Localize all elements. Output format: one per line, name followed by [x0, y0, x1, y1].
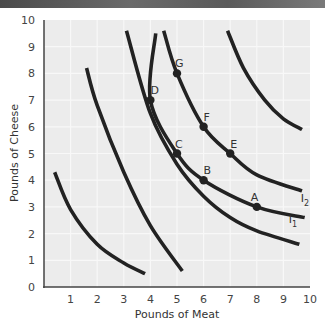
x-tick-label: 1: [67, 293, 74, 306]
point-label-c: C: [175, 138, 183, 151]
y-tick-label: 5: [28, 148, 35, 161]
point-a: [253, 203, 261, 211]
x-tick-label: 7: [227, 293, 234, 306]
y-tick-label: 9: [28, 41, 35, 54]
y-tick-label: 10: [21, 14, 35, 27]
y-tick-label: 8: [28, 67, 35, 80]
point-label-g: G: [175, 57, 184, 70]
point-f: [199, 123, 207, 131]
y-tick-label: 1: [28, 254, 35, 267]
y-tick-label: 6: [28, 121, 35, 134]
x-tick-label: 9: [280, 293, 287, 306]
point-label-f: F: [204, 111, 210, 124]
x-tick-label: 8: [253, 293, 260, 306]
point-b: [199, 176, 207, 184]
x-tick-label: 6: [200, 293, 207, 306]
point-g: [173, 69, 181, 77]
point-d: [146, 96, 154, 104]
y-tick-label: 4: [28, 174, 35, 187]
y-tick-label: 7: [28, 94, 35, 107]
y-tick-label: 2: [28, 228, 35, 241]
point-label-e: E: [230, 138, 237, 151]
point-c: [173, 149, 181, 157]
y-tick-label: 0: [28, 281, 35, 294]
point-label-a: A: [251, 191, 259, 204]
x-tick-label: 3: [120, 293, 127, 306]
point-label-b: B: [204, 164, 212, 177]
x-tick-label: 2: [94, 293, 101, 306]
x-tick-label: 10: [303, 293, 317, 306]
point-label-d: D: [150, 84, 158, 97]
y-tick-label: 3: [28, 201, 35, 214]
y-axis-label: Pounds of Cheese: [8, 104, 21, 202]
indifference-curve-chart: ABCDEFGI2I1 01234567891012345678910 Poun…: [0, 0, 325, 332]
point-e: [226, 149, 234, 157]
x-tick-label: 4: [147, 293, 154, 306]
x-tick-label: 5: [174, 293, 181, 306]
x-axis-label: Pounds of Meat: [135, 308, 220, 321]
